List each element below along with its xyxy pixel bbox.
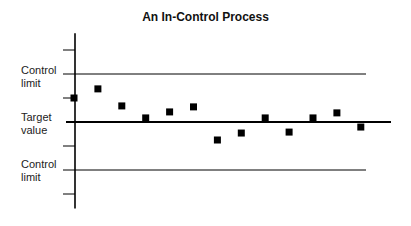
data-point [310, 114, 317, 121]
data-point [333, 109, 340, 116]
data-point [71, 95, 78, 102]
control-chart-plot [0, 0, 411, 226]
data-point [357, 124, 364, 131]
data-point [214, 137, 221, 144]
data-point [190, 103, 197, 110]
data-point [142, 114, 149, 121]
data-point [118, 102, 125, 109]
data-point [262, 114, 269, 121]
data-point [238, 130, 245, 137]
data-point [286, 129, 293, 136]
data-point [166, 108, 173, 115]
data-point [94, 85, 101, 92]
